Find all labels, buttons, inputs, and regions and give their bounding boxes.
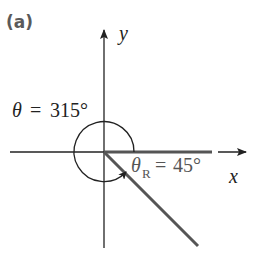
- theta-value: 315°: [50, 99, 88, 121]
- theta-equals: =: [30, 99, 41, 121]
- reference-subscript: R: [142, 166, 151, 181]
- x-axis-label: x: [228, 165, 238, 187]
- panel-label: (a): [6, 12, 33, 32]
- reference-value: 45°: [173, 154, 201, 176]
- y-axis-label: y: [117, 22, 128, 45]
- theta-symbol: θ: [12, 99, 22, 121]
- angle-diagram: (a) y x θ = 315° θ R = 45°: [0, 0, 254, 253]
- reference-angle-label: θ R = 45°: [131, 154, 201, 181]
- reference-equals: =: [155, 154, 166, 176]
- theta-label: θ = 315°: [12, 99, 88, 121]
- reference-theta-symbol: θ: [131, 154, 141, 176]
